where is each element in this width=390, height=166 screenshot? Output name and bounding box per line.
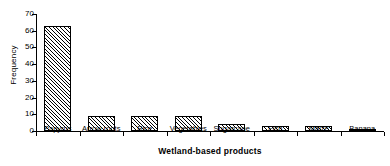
x-category-label: Arrow roots: [80, 124, 124, 134]
x-category-label: Banana: [341, 124, 385, 134]
y-tick-label: 50: [25, 41, 34, 52]
y-axis-line: [36, 14, 37, 131]
y-tick-label: 30: [25, 75, 34, 86]
y-tick-label: 0: [30, 125, 34, 136]
x-category-label: Fish: [254, 124, 298, 134]
y-tick-label: 40: [25, 58, 34, 69]
x-category-label: Vegetables: [167, 124, 211, 134]
y-tick-label: 70: [25, 8, 34, 19]
y-tick-label: 10: [25, 108, 34, 119]
x-tick-mark: [384, 132, 385, 136]
y-tick-label: 60: [25, 25, 34, 36]
y-tick-label: 20: [25, 92, 34, 103]
bar-chart-figure: Frequency 010203040506070 PapyrusArrow r…: [0, 0, 390, 166]
x-category-label: Maize: [297, 124, 341, 134]
plot-area: 010203040506070: [36, 14, 384, 131]
x-category-label: Papyrus: [36, 124, 80, 134]
x-axis-title: Wetland-based products: [36, 146, 384, 156]
x-category-label: Rice: [123, 124, 167, 134]
x-category-label: Sugarcane: [210, 124, 254, 134]
bar-papyrus: [44, 26, 71, 131]
y-axis-title: Frequency: [7, 0, 21, 131]
